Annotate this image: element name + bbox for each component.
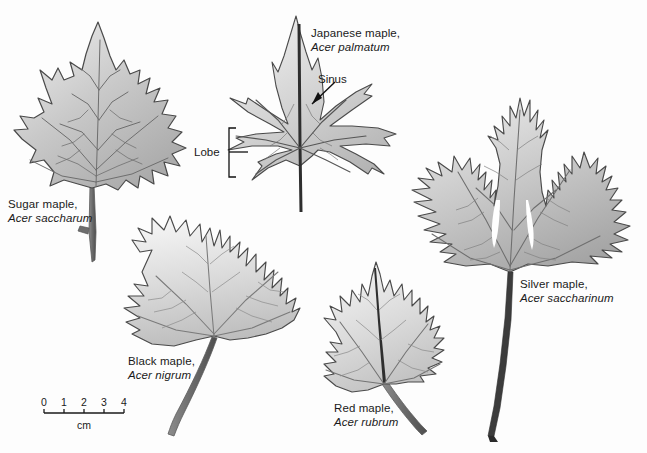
scale-tick-2: 2 xyxy=(81,396,87,408)
scale-bar-graphic xyxy=(44,409,124,413)
black-maple-petiole xyxy=(168,337,217,436)
silver-maple-petiole-tip xyxy=(488,436,498,442)
red-maple-scientific-name: Acer rubrum xyxy=(334,416,398,430)
sugar-maple-common-name: Sugar maple, xyxy=(8,198,92,212)
leaf-silver-maple xyxy=(412,98,630,442)
black-maple-common-name: Black maple, xyxy=(128,355,195,369)
scale-unit-label: cm xyxy=(77,419,91,431)
label-japanese-maple: Japanese maple, Acer palmatum xyxy=(311,27,400,54)
maple-leaf-illustration: Sugar maple, Acer saccharum Japanese map… xyxy=(0,0,647,453)
silver-maple-common-name: Silver maple, xyxy=(520,278,614,292)
scale-tick-4: 4 xyxy=(121,396,127,408)
sugar-maple-scientific-name: Acer saccharum xyxy=(8,212,92,226)
scale-tick-3: 3 xyxy=(101,396,107,408)
scale-tick-0: 0 xyxy=(41,396,47,408)
annotation-sinus: Sinus xyxy=(318,73,347,85)
leaf-black-maple xyxy=(124,216,300,436)
japanese-maple-common-name: Japanese maple, xyxy=(311,27,400,41)
label-silver-maple: Silver maple, Acer saccharinum xyxy=(520,278,614,305)
black-maple-blade xyxy=(124,216,300,346)
label-red-maple: Red maple, Acer rubrum xyxy=(334,402,398,429)
black-maple-scientific-name: Acer nigrum xyxy=(128,369,195,383)
silver-maple-blade xyxy=(412,98,630,272)
sugar-maple-petiole-scar xyxy=(78,226,89,234)
silver-maple-scientific-name: Acer saccharinum xyxy=(520,292,614,306)
annotation-lobe: Lobe xyxy=(194,146,220,158)
lobe-bracket xyxy=(229,128,248,177)
red-maple-common-name: Red maple, xyxy=(334,402,398,416)
scale-tick-1: 1 xyxy=(61,396,67,408)
japanese-maple-scientific-name: Acer palmatum xyxy=(311,41,400,55)
label-sugar-maple: Sugar maple, Acer saccharum xyxy=(8,198,92,225)
label-black-maple: Black maple, Acer nigrum xyxy=(128,355,195,382)
silver-maple-petiole xyxy=(488,272,513,436)
leaf-artwork xyxy=(0,0,647,453)
